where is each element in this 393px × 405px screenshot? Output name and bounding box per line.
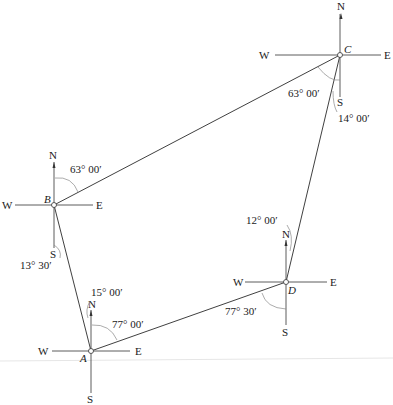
station-a-marker: [89, 349, 94, 354]
station-a-label: A: [79, 352, 87, 364]
course-b-c: [54, 55, 340, 205]
c-east-label: E: [384, 49, 391, 61]
station-c-compass: N W E S C 63° 00′ 14° 00′: [259, 0, 391, 124]
d-north-angle: 12° 00′: [246, 214, 278, 226]
a-west-label: W: [38, 345, 49, 357]
b-south-angle: 13° 30′: [20, 259, 52, 271]
north-arrow-icon: [285, 240, 288, 246]
station-d-marker: [284, 280, 289, 285]
b-north-angle: 63° 00′: [70, 163, 102, 175]
station-a-compass: N W E S A 15° 00′ 77° 00′: [38, 286, 144, 405]
a-north-angle: 15° 00′: [91, 286, 123, 298]
station-c-label: C: [344, 43, 352, 55]
a-north-label: N: [88, 298, 96, 310]
c-west-label: W: [259, 49, 270, 61]
station-b-marker: [52, 203, 57, 208]
d-east-label: E: [330, 276, 337, 288]
station-d-label: D: [287, 284, 296, 296]
north-arrow-icon: [53, 162, 56, 168]
c-north-label: N: [337, 0, 345, 12]
b-west-label: W: [2, 199, 13, 211]
b-east-label: E: [96, 199, 103, 211]
d-north-label: N: [282, 228, 290, 240]
a-east-label: E: [135, 345, 142, 357]
b-north-arc: [55, 178, 78, 192]
north-arrow-icon: [90, 310, 93, 316]
station-b-compass: N W E S B 63° 00′ 13° 30′: [2, 149, 103, 271]
course-a-b: [54, 205, 91, 351]
station-d-compass: N W E S D 12° 00′ 77° 30′: [225, 214, 337, 338]
b-north-label: N: [49, 149, 57, 161]
c-sw-angle: 63° 00′: [288, 87, 320, 99]
traverse-diagram: N W E S B 63° 00′ 13° 30′ N W E S C 63° …: [0, 0, 393, 405]
d-sw-angle: 77° 30′: [225, 305, 257, 317]
scan-artifact-line: [0, 358, 393, 361]
c-south-angle: 14° 00′: [338, 112, 370, 124]
station-c-marker: [338, 53, 343, 58]
station-b-label: B: [44, 193, 51, 205]
a-south-label: S: [87, 393, 93, 405]
d-south-label: S: [282, 326, 288, 338]
d-west-label: W: [233, 276, 244, 288]
c-south-label: S: [337, 96, 343, 108]
a-ne-angle: 77° 00′: [112, 318, 144, 330]
d-sw-arc: [262, 293, 286, 309]
